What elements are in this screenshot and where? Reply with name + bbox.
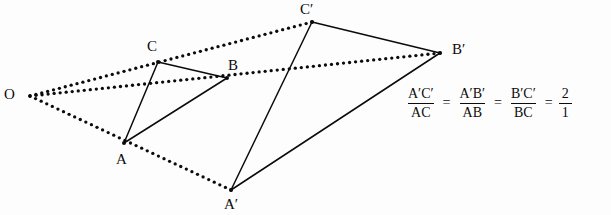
- ray-O-to-Cp: [28, 20, 313, 97]
- fraction-denominator: BC: [511, 103, 536, 121]
- vertex-label-B-prime: B′: [452, 42, 465, 57]
- equals-sign-2: =: [489, 95, 507, 111]
- solid-edges-layer: [124, 22, 440, 190]
- edge-BpCp: [312, 22, 440, 53]
- dotted-rays-layer: [28, 20, 441, 191]
- edge-ApBp: [231, 53, 440, 190]
- fraction-numerator: A′C′: [405, 86, 437, 103]
- vertex-dot-C: [156, 60, 160, 64]
- vertex-dot-A: [122, 141, 126, 145]
- edge-BC: [158, 62, 227, 78]
- fraction-numerator: B′C′: [508, 86, 539, 103]
- fraction-numerator: A′B′: [456, 86, 488, 103]
- equals-sign-1: =: [438, 95, 456, 111]
- fraction-3: B′C′BC: [508, 86, 539, 120]
- equals-sign-3: =: [540, 95, 558, 111]
- edge-CA: [124, 62, 158, 143]
- vertex-label-O: O: [4, 87, 15, 102]
- fraction-denominator: AC: [408, 103, 433, 121]
- vertex-label-C: C: [147, 39, 157, 54]
- fraction-4: 21: [559, 86, 572, 120]
- fraction-2: A′B′AB: [456, 86, 488, 120]
- dilation-diagram: O A B C A′ B′ C′ A′C′AC=A′B′AB=B′C′BC=21: [0, 0, 611, 215]
- vertex-dot-Cp: [310, 20, 314, 24]
- vertex-dot-Bp: [438, 51, 442, 55]
- vertex-dots-layer: [122, 20, 442, 192]
- fraction-denominator: 1: [559, 103, 572, 121]
- edge-AB: [124, 78, 227, 143]
- fraction-denominator: AB: [460, 103, 485, 121]
- vertex-label-A: A: [116, 152, 127, 167]
- vertex-label-C-prime: C′: [300, 2, 313, 17]
- ratio-equation: A′C′AC=A′B′AB=B′C′BC=21: [404, 86, 573, 120]
- vertex-dot-Ap: [229, 188, 233, 192]
- edge-CpAp: [231, 22, 312, 190]
- ray-O-to-Ap: [28, 94, 232, 191]
- fraction-1: A′C′AC: [405, 86, 437, 120]
- fraction-numerator: 2: [559, 86, 572, 103]
- vertex-label-A-prime: A′: [224, 197, 238, 212]
- vertex-label-B: B: [228, 58, 238, 73]
- vertex-dot-B: [225, 76, 229, 80]
